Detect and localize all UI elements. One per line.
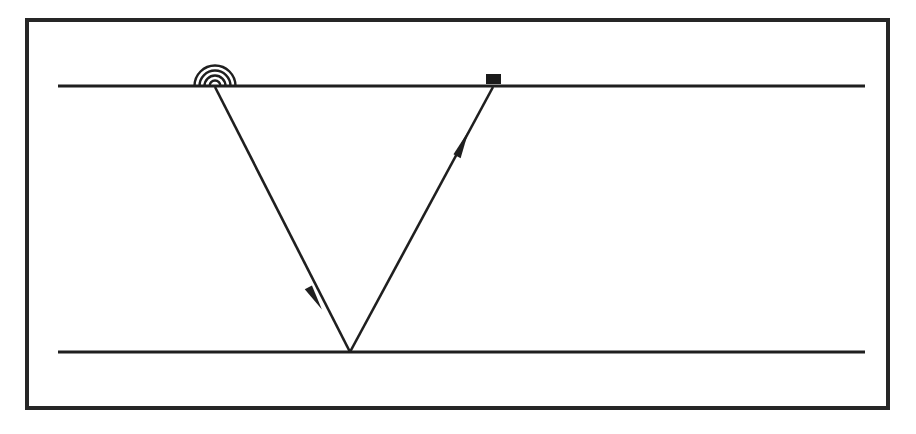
receiver-box <box>486 74 501 84</box>
figure-root: Single-bounce ray reflection diagram <box>0 0 916 434</box>
ray-diagram-canvas <box>0 0 916 434</box>
figure-background <box>0 0 916 434</box>
